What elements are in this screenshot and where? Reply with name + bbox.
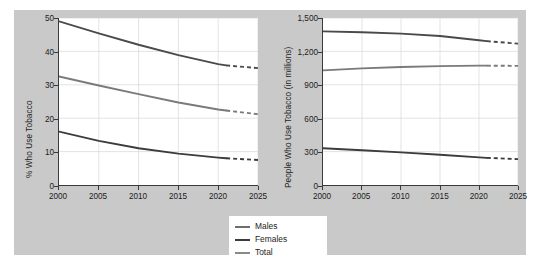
x-tick-mark [322,186,323,190]
chart-panel: % Who Use Tobacco 01020304050 2000200520… [14,10,526,255]
line-swatch-icon [235,226,250,228]
x-tick-label: 2005 [352,192,370,201]
y-tick-label: 0 [296,182,318,191]
x-tick-mark [58,186,59,190]
x-tick-label: 2015 [430,192,448,201]
y-tick-label: 900 [296,81,318,90]
x-tick-label: 2000 [313,192,331,201]
x-tick-label: 2000 [49,192,67,201]
legend: MalesFemalesTotal [229,216,327,263]
y-tick-label: 1,200 [296,47,318,56]
legend-item[interactable]: Total [235,246,321,259]
legend-item-label: Females [255,233,287,246]
line-swatch-icon [235,239,250,241]
legend-item[interactable]: Females [235,233,321,246]
y-tick-label: 300 [296,148,318,157]
x-tick-label: 2015 [169,192,187,201]
legend-item-label: Males [255,220,277,233]
y-tick-label: 10 [32,148,54,157]
line-series-left [59,18,258,185]
line-series-right [323,18,518,185]
x-tick-mark [178,186,179,190]
x-tick-mark [258,186,259,190]
x-tick-mark [400,186,401,190]
x-tick-label: 2010 [391,192,409,201]
x-tick-mark [518,186,519,190]
x-tick-mark [218,186,219,190]
line-swatch-icon [235,252,250,254]
x-tick-label: 2020 [209,192,227,201]
plot-area-right [322,18,518,186]
x-tick-label: 2025 [249,192,267,201]
x-tick-label: 2025 [509,192,527,201]
y-tick-label: 50 [32,14,54,23]
x-tick-mark [479,186,480,190]
legend-item-label: Total [255,246,273,259]
x-tick-mark [98,186,99,190]
figure-canvas: % Who Use Tobacco 01020304050 2000200520… [0,0,539,270]
x-tick-label: 2020 [470,192,488,201]
y-tick-label: 0 [32,182,54,191]
y-axis-label-left: % Who Use Tobacco [25,100,34,178]
y-tick-label: 1,500 [296,14,318,23]
x-tick-label: 2005 [89,192,107,201]
plot-area-left [58,18,258,186]
y-axis-label-right: People Who Use Tobacco (in millions) [284,47,293,188]
x-tick-mark [440,186,441,190]
x-tick-label: 2010 [129,192,147,201]
y-tick-label: 40 [32,47,54,56]
y-tick-label: 600 [296,114,318,123]
y-tick-label: 20 [32,114,54,123]
legend-item[interactable]: Males [235,220,321,233]
x-tick-mark [361,186,362,190]
x-tick-mark [138,186,139,190]
y-tick-label: 30 [32,81,54,90]
